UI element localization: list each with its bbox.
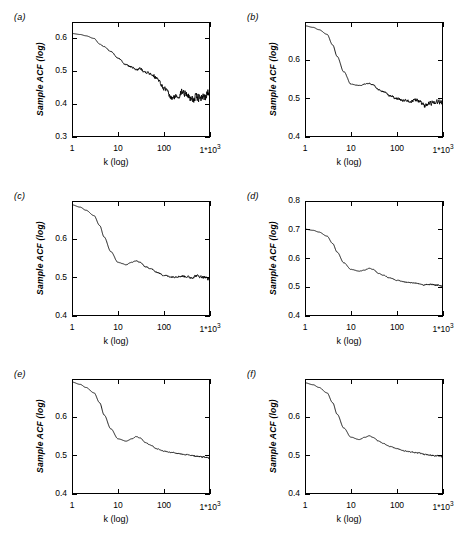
- acf-line: [72, 205, 210, 280]
- acf-curve: [233, 357, 465, 535]
- acf-line: [305, 26, 443, 108]
- panel-e: (e)Sample ACF (log)0.40.50.61101001*103k…: [0, 357, 232, 535]
- acf-line: [305, 383, 443, 457]
- acf-curve: [0, 357, 232, 535]
- acf-line: [305, 229, 443, 286]
- acf-line: [72, 382, 210, 459]
- acf-curve: [233, 0, 465, 178]
- panel-b: (b)Sample ACF (log)0.40.50.61101001*103k…: [233, 0, 465, 178]
- panel-d: (d)Sample ACF (log)0.40.50.60.70.8110100…: [233, 179, 465, 357]
- acf-curve: [0, 0, 232, 178]
- panel-c: (c)Sample ACF (log)0.40.50.61101001*103k…: [0, 179, 232, 357]
- panel-f: (f)Sample ACF (log)0.40.50.61101001*103k…: [233, 357, 465, 535]
- acf-line: [72, 34, 210, 103]
- figure-acf-grid: (a)Sample ACF (log)0.30.40.50.61101001*1…: [0, 0, 465, 536]
- acf-curve: [233, 179, 465, 357]
- panel-a: (a)Sample ACF (log)0.30.40.50.61101001*1…: [0, 0, 232, 178]
- acf-curve: [0, 179, 232, 357]
